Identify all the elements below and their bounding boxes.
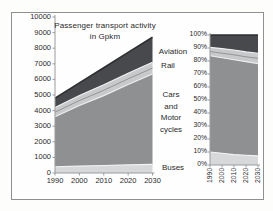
y-tick-label-chart1: 9000: [16, 29, 51, 37]
y-tick-label-chart1: 1000: [16, 153, 51, 161]
y-tick-label-chart2: 70%: [182, 70, 207, 77]
y-tick-label-chart2: 80%: [182, 57, 207, 64]
x-tick-label-chart1: 2020: [117, 177, 139, 185]
y-tick-label-chart1: 4000: [16, 107, 51, 115]
x-tick-label-chart1: 1990: [44, 177, 66, 185]
y-tick-label-chart1: 5000: [16, 91, 51, 99]
y-tick-label-chart2: 90%: [182, 44, 207, 51]
y-tick-label-chart1: 8000: [16, 44, 51, 52]
x-tick-label-chart2: 1990: [207, 164, 214, 186]
y-tick-label-chart1: 7000: [16, 60, 51, 68]
y-tick-label-chart2: 0%: [182, 161, 207, 168]
y-tick-label-chart1: 0: [16, 169, 51, 177]
x-tick-label-chart1: 2030: [142, 177, 164, 185]
y-tick-label-chart1: 3000: [16, 122, 51, 130]
y-tick-label-chart2: 60%: [182, 83, 207, 90]
chart-title-line1: Passenger transport activity: [46, 22, 164, 30]
y-tick-label-chart2: 50%: [182, 96, 207, 103]
y-tick-label-chart2: 10%: [182, 148, 207, 155]
y-tick-label-chart2: 20%: [182, 135, 207, 142]
y-tick-label-chart1: 6000: [16, 75, 51, 83]
y-tick-label-chart1: 10000: [16, 13, 51, 21]
x-tick-label-chart2: 2010: [231, 164, 238, 186]
series-label-rail: Rail: [151, 62, 185, 70]
x-tick-label-chart1: 2000: [68, 177, 90, 185]
chart-title-line2: in Gpkm: [46, 33, 164, 41]
x-tick-label-chart1: 2010: [93, 177, 115, 185]
x-tick-label-chart2: 2020: [243, 164, 250, 186]
y-tick-label-chart2: 100%: [182, 31, 207, 38]
x-tick-label-chart2: 2000: [219, 164, 226, 186]
y-tick-label-chart2: 40%: [182, 109, 207, 116]
y-tick-label-chart1: 2000: [16, 138, 51, 146]
area-band-cars-and-motor-cycles-chart2: [210, 56, 258, 156]
y-tick-label-chart2: 30%: [182, 122, 207, 129]
scanned-chart-figure: Passenger transport activity in Gpkm Avi…: [0, 0, 273, 211]
x-tick-label-chart2: 2030: [255, 164, 262, 186]
